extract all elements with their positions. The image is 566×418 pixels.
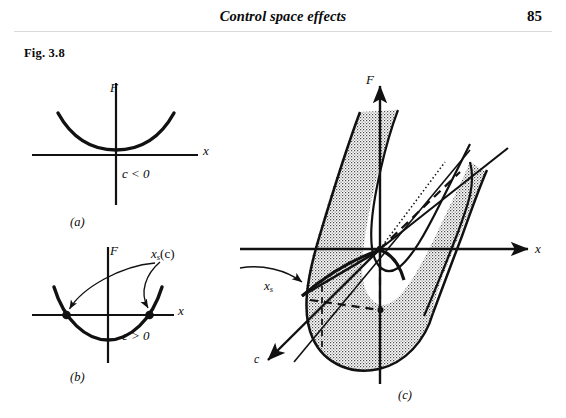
panel-c-lower-node — [378, 307, 384, 313]
panel-c-figure — [240, 86, 528, 384]
panel-b-condition-text: c > 0 — [122, 328, 150, 343]
page-artwork — [0, 0, 566, 418]
panel-b-tag: (b) — [70, 370, 85, 385]
panel-a-axis-label-x: x — [203, 143, 209, 159]
panel-c-origin-node — [377, 246, 383, 252]
panel-c-axis-label-f: F — [366, 72, 374, 88]
figure-label: Fig. 3.8 — [24, 46, 65, 61]
panel-b-axis-label-f: F — [110, 243, 118, 259]
panel-b-root-right — [145, 311, 154, 320]
panel-b-axis-label-x: x — [178, 303, 184, 319]
panel-b-root-left — [62, 311, 71, 320]
panel-b-curve-label-arg: (c) — [160, 246, 174, 261]
panel-c-curve-label-subscript: s — [270, 284, 273, 294]
textbook-page: Control space effects 85 — [0, 0, 566, 418]
panel-a-condition: c < 0 — [122, 166, 150, 182]
panel-b-figure — [32, 247, 174, 363]
panel-c-curve-label: xs — [264, 278, 273, 294]
panel-a-condition-text: c < 0 — [122, 166, 150, 181]
panel-b-condition: c > 0 — [122, 328, 150, 344]
panel-c-axis-label-x: x — [535, 241, 541, 257]
panel-b-curve-label: xs(c) — [151, 246, 175, 262]
panel-b-arrow-left — [70, 263, 156, 309]
panel-a-figure — [32, 83, 198, 205]
panel-c-axis-label-c: c — [254, 352, 259, 367]
panel-a-axis-label-f: F — [110, 80, 118, 96]
panel-c-tag: (c) — [398, 388, 412, 403]
panel-a-tag: (a) — [70, 215, 85, 230]
